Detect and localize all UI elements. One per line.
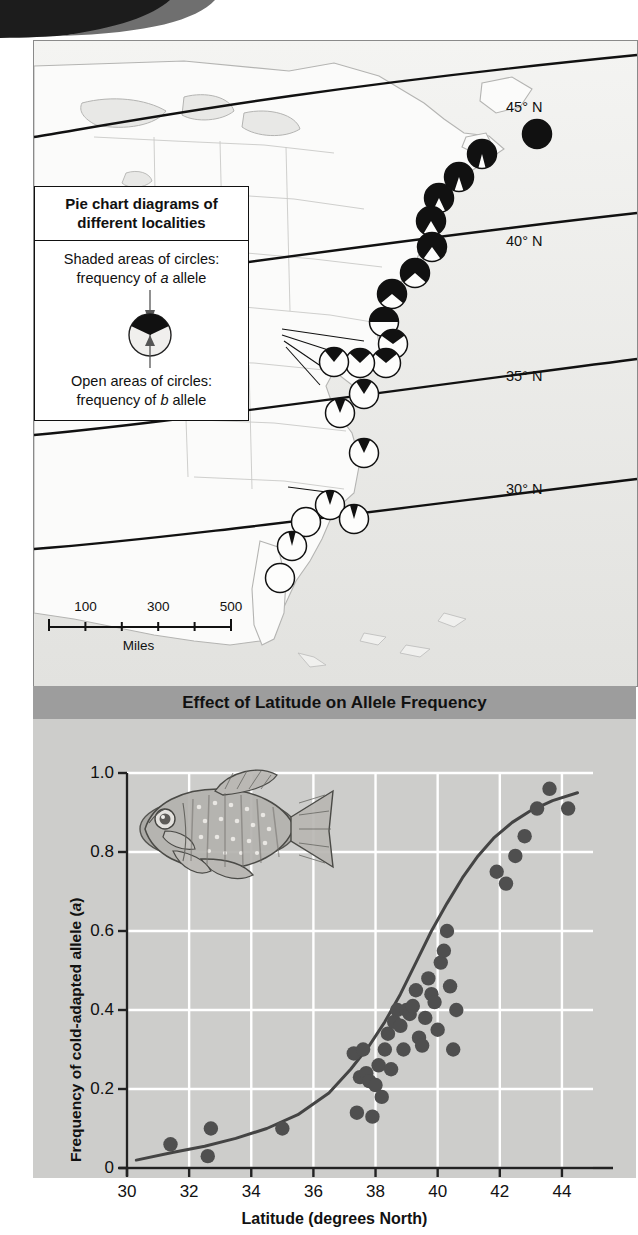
- data-point-37: [449, 1003, 463, 1017]
- data-point-35: [443, 979, 457, 993]
- scale-label-500: 500: [220, 599, 243, 614]
- data-point-33: [437, 944, 451, 958]
- pie-marker-7: [378, 279, 407, 308]
- data-point-23: [406, 999, 420, 1013]
- data-point-36: [446, 1042, 460, 1056]
- legend-open-text: Open areas of circles: frequency of b al…: [43, 372, 240, 410]
- chart-title: Effect of Latitude on Allele Frequency: [182, 693, 486, 713]
- data-point-1: [201, 1149, 215, 1163]
- data-point-14: [378, 1042, 392, 1056]
- pie-marker-11: [346, 348, 375, 377]
- legend-title: Pie chart diagrams of different localiti…: [35, 187, 248, 241]
- data-point-13: [375, 1090, 389, 1104]
- scale-bar-unit: Miles: [46, 638, 286, 653]
- pie-marker-17: [340, 505, 369, 534]
- data-point-27: [418, 1011, 432, 1025]
- y-tick-label-0: 0: [105, 1158, 114, 1178]
- scatter-plot-graphic: [33, 719, 636, 1178]
- latitude-label-3: 30° N: [506, 481, 542, 497]
- pie-marker-12: [320, 348, 349, 377]
- legend-sample-pie: [43, 288, 258, 372]
- page-corner-decoration: [0, 0, 230, 40]
- legend-open-line1: Open areas of circles:: [71, 373, 212, 389]
- legend-open-line2-post: allele: [169, 392, 207, 408]
- scale-bar-ruler: [46, 616, 286, 632]
- pie-marker-14: [326, 399, 355, 428]
- pie-marker-4: [417, 206, 446, 235]
- killifish-illustration: [140, 770, 333, 878]
- pie-marker-19: [278, 532, 307, 561]
- pie-marker-0: [523, 120, 552, 149]
- pie-marker-20: [266, 564, 295, 593]
- data-point-38: [489, 865, 503, 879]
- x-tick-label-6: 42: [490, 1182, 509, 1202]
- legend-open-line2-pre: frequency of: [77, 392, 161, 408]
- y-axis-label: Frequency of cold-adapted allele (a): [67, 898, 85, 1162]
- latitude-label-1: 40° N: [506, 233, 542, 249]
- scale-bar-labels: 100300500: [46, 599, 286, 616]
- legend-shaded-allele: a: [160, 270, 168, 286]
- allele-frequency-chart: Effect of Latitude on Allele Frequency: [33, 686, 636, 1178]
- allele-frequency-map: 45° N40° N35° N30° N Pie chart diagrams …: [33, 40, 638, 687]
- data-point-28: [421, 971, 435, 985]
- data-point-30: [427, 995, 441, 1009]
- pie-marker-1: [468, 139, 497, 168]
- data-point-10: [365, 1109, 379, 1123]
- data-point-24: [409, 983, 423, 997]
- x-tick-label-0: 30: [118, 1182, 137, 1202]
- data-point-2: [204, 1121, 218, 1135]
- data-point-43: [542, 782, 556, 796]
- y-tick-label-3: 0.6: [90, 921, 114, 941]
- x-tick-label-4: 38: [366, 1182, 385, 1202]
- data-point-7: [356, 1042, 370, 1056]
- legend-shaded-text: Shaded areas of circles: frequency of a …: [43, 250, 240, 288]
- x-tick-label-1: 32: [180, 1182, 199, 1202]
- x-axis-label: Latitude (degrees North): [33, 1210, 636, 1228]
- latitude-label-2: 35° N: [506, 368, 542, 384]
- pie-marker-15: [350, 439, 379, 468]
- data-point-41: [517, 829, 531, 843]
- legend-sample-pie-area: [43, 288, 240, 372]
- y-tick-label-5: 1.0: [90, 763, 114, 783]
- y-tick-label-1: 0.2: [90, 1079, 114, 1099]
- chart-title-banner: Effect of Latitude on Allele Frequency: [33, 686, 636, 719]
- y-tick-label-2: 0.4: [90, 1000, 114, 1020]
- chart-plot-area: 00.20.40.60.81.0 3032343638404244 Freque…: [33, 719, 636, 1178]
- data-point-12: [371, 1058, 385, 1072]
- data-point-20: [396, 1042, 410, 1056]
- data-point-19: [393, 1019, 407, 1033]
- x-tick-label-7: 44: [552, 1182, 571, 1202]
- legend-shaded-line2-post: allele: [169, 270, 207, 286]
- x-tick-label-2: 34: [242, 1182, 261, 1202]
- scale-label-100: 100: [74, 599, 97, 614]
- y-axis-label-pre: Frequency of cold-adapted allele (: [67, 911, 84, 1162]
- x-tick-label-5: 40: [428, 1182, 447, 1202]
- pie-marker-5: [417, 232, 446, 261]
- legend-title-line2: different localities: [77, 214, 205, 231]
- legend-shaded-line2-pre: frequency of: [77, 270, 161, 286]
- pie-marker-13: [350, 380, 379, 409]
- data-point-44: [561, 801, 575, 815]
- data-point-3: [275, 1121, 289, 1135]
- scale-label-300: 300: [147, 599, 170, 614]
- y-axis-label-allele: a: [67, 903, 84, 912]
- pie-marker-6: [400, 259, 429, 288]
- x-tick-label-3: 36: [304, 1182, 323, 1202]
- y-tick-label-4: 0.8: [90, 842, 114, 862]
- data-point-16: [384, 1062, 398, 1076]
- data-point-42: [530, 801, 544, 815]
- latitude-label-0: 45° N: [506, 99, 542, 115]
- data-point-26: [415, 1038, 429, 1052]
- data-point-34: [440, 924, 454, 938]
- legend-open-allele: b: [160, 392, 168, 408]
- data-point-5: [350, 1106, 364, 1120]
- y-axis-label-post: ): [67, 898, 84, 903]
- data-point-0: [163, 1137, 177, 1151]
- map-scale-bar: 100300500 Miles: [46, 599, 286, 653]
- legend-title-line1: Pie chart diagrams of: [65, 195, 218, 212]
- legend-shaded-line1: Shaded areas of circles:: [64, 251, 220, 267]
- data-point-39: [499, 876, 513, 890]
- pie-marker-10: [372, 349, 401, 378]
- data-point-31: [430, 1023, 444, 1037]
- map-legend: Pie chart diagrams of different localiti…: [34, 186, 249, 421]
